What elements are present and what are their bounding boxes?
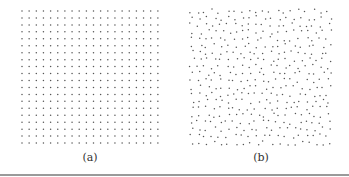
point	[191, 116, 193, 118]
point	[129, 87, 131, 89]
point	[157, 80, 159, 82]
point	[249, 85, 251, 87]
point	[269, 102, 271, 104]
point	[205, 47, 207, 49]
point	[64, 101, 66, 103]
point	[294, 60, 296, 62]
point	[293, 102, 295, 104]
point	[114, 66, 116, 68]
point	[223, 30, 225, 32]
point	[246, 109, 248, 111]
point	[263, 59, 265, 61]
point	[296, 81, 298, 83]
point	[93, 115, 95, 117]
point	[43, 24, 45, 26]
point	[232, 107, 234, 109]
point	[313, 82, 315, 84]
point	[220, 37, 222, 39]
point	[43, 17, 45, 19]
point	[43, 10, 45, 12]
point	[107, 101, 109, 103]
point	[228, 16, 230, 18]
point	[157, 59, 159, 61]
point	[211, 8, 213, 10]
point	[306, 26, 308, 28]
point	[213, 43, 215, 45]
point	[57, 101, 59, 103]
point	[78, 38, 80, 40]
point	[150, 87, 152, 89]
point	[129, 94, 131, 96]
point	[36, 128, 38, 130]
point	[43, 59, 45, 61]
point	[271, 109, 273, 111]
point	[278, 53, 280, 55]
point	[121, 66, 123, 68]
point	[261, 92, 263, 94]
point	[236, 47, 238, 49]
point	[327, 102, 329, 104]
point	[278, 135, 280, 137]
point	[258, 144, 260, 146]
point	[259, 72, 261, 74]
point	[143, 10, 145, 12]
point	[294, 144, 296, 146]
point	[192, 50, 194, 52]
point	[150, 59, 152, 61]
point	[86, 128, 88, 130]
point	[28, 108, 30, 110]
point	[191, 93, 193, 95]
point	[314, 19, 316, 21]
point	[275, 78, 277, 80]
point	[291, 106, 293, 108]
point	[21, 135, 23, 137]
point	[71, 80, 73, 82]
point	[143, 121, 145, 123]
point	[220, 53, 222, 55]
point	[21, 17, 23, 19]
point	[228, 59, 230, 61]
point	[50, 87, 52, 89]
point	[243, 88, 245, 90]
point	[226, 51, 228, 53]
point	[298, 9, 300, 11]
point	[57, 17, 59, 19]
point	[316, 32, 318, 34]
point	[64, 128, 66, 130]
point	[277, 115, 279, 117]
point	[210, 136, 212, 138]
point	[107, 31, 109, 32]
point	[286, 102, 288, 104]
point	[143, 45, 145, 47]
point	[50, 73, 52, 75]
point	[331, 18, 333, 20]
point	[43, 45, 45, 47]
point	[136, 24, 138, 26]
point	[57, 24, 59, 26]
point	[309, 45, 311, 47]
point	[143, 108, 145, 110]
point	[78, 121, 80, 123]
point	[100, 38, 102, 40]
point	[114, 128, 116, 130]
point	[211, 92, 213, 94]
point	[36, 101, 38, 103]
point	[36, 135, 38, 137]
point	[201, 33, 203, 35]
point	[235, 23, 237, 25]
point	[64, 59, 66, 61]
point	[93, 128, 95, 130]
point	[325, 95, 327, 97]
point	[64, 121, 66, 123]
point	[217, 137, 219, 139]
point	[21, 66, 23, 68]
point	[150, 108, 152, 110]
point	[227, 94, 229, 96]
point	[93, 31, 95, 32]
point	[231, 120, 233, 122]
point	[247, 136, 249, 138]
point	[206, 16, 208, 18]
point	[157, 31, 159, 32]
point	[157, 94, 159, 96]
point	[28, 52, 30, 54]
